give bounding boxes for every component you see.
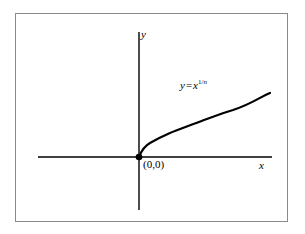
figure-container: y x (0,0) y=x1/n: [0, 0, 305, 234]
equation-exponent: 1/n: [198, 78, 207, 86]
function-curve: [139, 93, 270, 157]
equation-operator: =: [185, 79, 193, 91]
origin-coordinate-label: (0,0): [143, 159, 164, 170]
x-axis-label: x: [259, 160, 264, 171]
plot-canvas: [0, 0, 305, 234]
y-axis-label: y: [141, 29, 146, 40]
origin-point-marker: [136, 154, 143, 161]
exponent-variable: n: [203, 78, 207, 86]
curve-equation-label: y=x1/n: [180, 80, 207, 91]
